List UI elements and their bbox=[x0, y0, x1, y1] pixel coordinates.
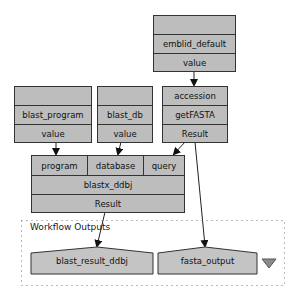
edge-blast-db-to-database bbox=[118, 142, 121, 154]
output-port-value[interactable]: value bbox=[154, 53, 235, 72]
input-port-query[interactable]: query bbox=[143, 156, 184, 175]
workflow-outputs-title: Workflow Outputs bbox=[30, 222, 110, 232]
node-blast-program[interactable]: blast_program value bbox=[14, 86, 92, 143]
edge-getfasta-to-query bbox=[174, 142, 185, 154]
output-port-result[interactable]: Result bbox=[32, 194, 184, 213]
node-name: emblid_default bbox=[154, 34, 235, 53]
node-name: blastx_ddbj bbox=[32, 175, 184, 194]
input-ports-row: program database query bbox=[32, 156, 184, 175]
input-port-program[interactable]: program bbox=[32, 156, 87, 175]
input-port-accession[interactable]: accession bbox=[163, 87, 227, 105]
output-label-blast-result-ddbj: blast_result_ddbj bbox=[31, 256, 153, 266]
output-port-value[interactable]: value bbox=[98, 124, 152, 143]
node-emblid-default[interactable]: emblid_default value bbox=[153, 15, 236, 72]
node-blastx-ddbj[interactable]: program database query blastx_ddbj Resul… bbox=[31, 155, 185, 213]
output-label-fasta-output: fasta_output bbox=[158, 256, 257, 266]
node-name: blast_program bbox=[15, 105, 91, 124]
output-port-value[interactable]: value bbox=[15, 124, 91, 143]
node-name: blast_db bbox=[98, 105, 152, 124]
input-port-database[interactable]: database bbox=[87, 156, 143, 175]
node-header bbox=[154, 16, 235, 34]
node-header bbox=[15, 87, 91, 105]
node-blast-db[interactable]: blast_db value bbox=[97, 86, 153, 143]
output-port-result[interactable]: Result bbox=[163, 124, 227, 143]
node-header bbox=[98, 87, 152, 105]
edge-getfasta-to-fasta-output bbox=[195, 142, 205, 246]
node-name: getFASTA bbox=[163, 105, 227, 124]
triangle-down-icon[interactable] bbox=[262, 259, 276, 268]
edges-layer bbox=[0, 0, 294, 298]
node-getfasta[interactable]: accession getFASTA Result bbox=[162, 86, 228, 143]
